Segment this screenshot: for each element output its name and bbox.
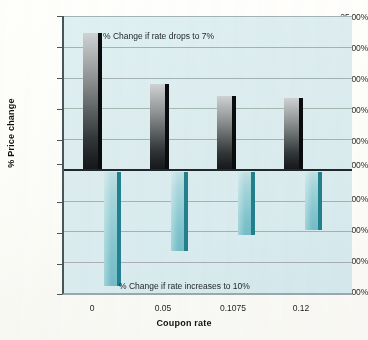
x-tick-label-0: 0 [62,303,122,313]
bar-negative-0.1075 [238,172,255,235]
bond-price-change-chart: 25.00% 20.00% 15.00% 10.00% 5.00% 0.00% … [0,0,368,340]
gridline-15 [64,78,352,79]
bar-positive-0.1075 [217,96,236,170]
plot-area [62,16,352,295]
zero-baseline [64,169,352,171]
x-axis-title: Coupon rate [0,318,368,328]
annotation-rate-drops: % Change if rate drops to 7% [103,31,214,41]
y-axis-title: % Price change [6,73,16,193]
bar-negative-0.05 [171,172,188,251]
bar-positive-0.05 [150,84,169,170]
gridline-10 [64,108,352,109]
x-tick-label-0.1075: 0.1075 [203,303,263,313]
bar-positive-0 [83,33,102,170]
gridline-25 [64,16,352,17]
bar-negative-0 [104,172,121,286]
annotation-rate-increases: % Change if rate increases to 10% [119,281,250,291]
gridline-20 [64,47,352,48]
bar-positive-0.12 [284,98,303,170]
gridline-5 [64,139,352,140]
bar-negative-0.12 [305,172,322,230]
x-tick-label-0.12: 0.12 [271,303,331,313]
x-tick-label-0.05: 0.05 [133,303,193,313]
